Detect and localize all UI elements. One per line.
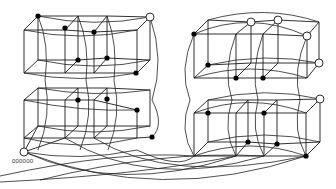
origin-vertex-label: 000000 xyxy=(12,158,33,164)
left-upper-cubes xyxy=(24,16,158,100)
left-block xyxy=(24,16,159,157)
left-lower-cubes xyxy=(24,80,159,157)
right-block xyxy=(185,12,320,156)
right-lower-cubes xyxy=(185,93,320,156)
right-filled-vertices xyxy=(191,31,308,158)
hypercube-diagram xyxy=(0,0,336,189)
